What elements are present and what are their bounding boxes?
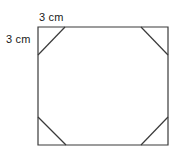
geometry-figure: 3 cm 3 cm	[0, 0, 175, 157]
dimension-label-left: 3 cm	[6, 33, 31, 45]
dimension-label-top: 3 cm	[39, 11, 64, 23]
figure-background	[0, 0, 175, 157]
geometry-canvas	[0, 0, 175, 157]
